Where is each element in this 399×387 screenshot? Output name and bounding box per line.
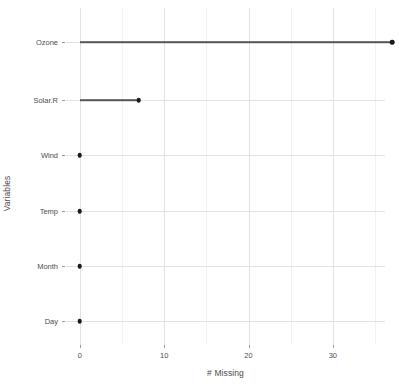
y-tick-mark-ozone	[62, 42, 65, 43]
x-tick-label-20: 20	[244, 351, 252, 360]
y-tick-label-day: Day	[0, 317, 58, 326]
gridline-minor-x-25	[291, 8, 292, 345]
gridline-major-x-30	[333, 8, 334, 345]
y-tick-label-wind: Wind	[0, 151, 58, 160]
lollipop-dot-temp	[78, 209, 83, 214]
gridline-minor-x-35	[375, 8, 376, 345]
x-tick-mark-10	[164, 345, 165, 348]
y-tick-label-solar-r: Solar.R	[0, 96, 58, 105]
lollipop-dot-day	[78, 319, 83, 324]
y-tick-mark-wind	[62, 155, 65, 156]
plot-panel	[66, 8, 385, 345]
gridline-row-day	[66, 321, 385, 322]
lollipop-segment-ozone	[80, 41, 392, 43]
y-tick-label-ozone: Ozone	[0, 38, 58, 47]
gridline-minor-x-5	[122, 8, 123, 345]
lollipop-segment-solar-r	[80, 99, 139, 101]
x-tick-mark-30	[333, 345, 334, 348]
lollipop-dot-solar-r	[137, 98, 142, 103]
lollipop-dot-ozone	[390, 40, 395, 45]
x-tick-label-0: 0	[78, 351, 82, 360]
y-axis-title: Variables	[0, 0, 14, 387]
x-tick-mark-0	[80, 345, 81, 348]
lollipop-dot-month	[78, 264, 83, 269]
y-tick-mark-month	[62, 266, 65, 267]
gridline-row-temp	[66, 211, 385, 212]
gridline-minor-x-15	[206, 8, 207, 345]
lollipop-dot-wind	[78, 153, 83, 158]
y-tick-mark-temp	[62, 211, 65, 212]
gridline-row-month	[66, 266, 385, 267]
y-tick-mark-solar-r	[62, 100, 65, 101]
x-tick-label-10: 10	[160, 351, 168, 360]
y-tick-label-month: Month	[0, 262, 58, 271]
missing-values-lollipop-chart: Variables # Missing	[0, 0, 399, 387]
gridline-row-wind	[66, 155, 385, 156]
gridline-major-x-0	[80, 8, 81, 345]
x-axis-title: # Missing	[66, 368, 385, 378]
gridline-major-x-20	[249, 8, 250, 345]
x-tick-label-30: 30	[329, 351, 337, 360]
x-tick-mark-20	[249, 345, 250, 348]
y-tick-mark-day	[62, 321, 65, 322]
y-tick-label-temp: Temp	[0, 207, 58, 216]
gridline-major-x-10	[164, 8, 165, 345]
